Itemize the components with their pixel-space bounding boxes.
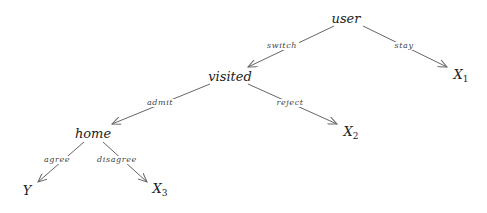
node-home: home <box>75 127 111 140</box>
node-label-text: home <box>75 126 111 141</box>
node-x3: X3 <box>153 182 168 198</box>
edge-label-switch: switch <box>265 42 299 50</box>
node-x2: X2 <box>344 125 359 141</box>
node-label-text: Y <box>23 183 32 198</box>
node-x1: X1 <box>454 68 469 84</box>
node-label-text: X <box>153 181 162 196</box>
node-subscript: 2 <box>353 131 359 141</box>
edges-layer <box>0 0 487 213</box>
node-subscript: 3 <box>162 188 168 198</box>
node-user: user <box>332 12 361 25</box>
node-label-text: user <box>332 11 361 26</box>
edge-label-agree: agree <box>42 156 72 164</box>
node-label-text: X <box>454 67 463 82</box>
node-label-text: visited <box>208 69 252 84</box>
decision-tree-diagram: switchstayadmitrejectagreedisagreeuservi… <box>0 0 487 213</box>
edge-label-stay: stay <box>392 42 415 50</box>
edge-label-disagree: disagree <box>95 156 139 164</box>
edge-label-admit: admit <box>145 99 175 107</box>
node-subscript: 1 <box>463 74 469 84</box>
node-label-text: X <box>344 124 353 139</box>
edge-label-reject: reject <box>274 99 305 107</box>
node-visited: visited <box>208 70 252 83</box>
node-y: Y <box>23 184 32 197</box>
